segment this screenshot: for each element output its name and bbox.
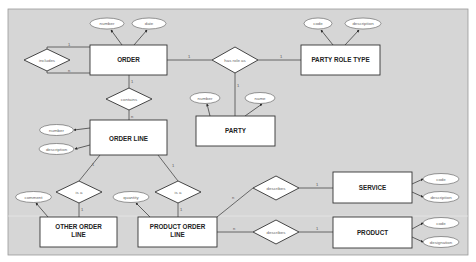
attribute-product-order-line-quantity[interactable]: quantity [113, 192, 149, 203]
relationship-label: includes [39, 58, 56, 63]
cardinality: n [232, 195, 234, 200]
entity-label-line2: LINE [71, 231, 85, 238]
entity-party[interactable]: PARTY [196, 116, 275, 146]
cardinality: n [131, 114, 133, 119]
attribute-party-name[interactable]: name [245, 93, 275, 104]
attribute-order-line-description[interactable]: description [39, 144, 74, 155]
entity-label-line1: OTHER ORDER [55, 223, 102, 230]
entity-label-line1: PRODUCT ORDER [150, 223, 206, 230]
entity-label: ORDER LINE [109, 135, 148, 142]
entity-other-order-line[interactable]: OTHER ORDER LINE [40, 217, 117, 247]
attribute-order-date[interactable]: date [132, 18, 166, 29]
relationship-label: is a [76, 190, 83, 195]
attribute-label: quantity [123, 195, 139, 200]
cardinality: n [68, 68, 70, 73]
attribute-other-order-line-comment[interactable]: comment [16, 192, 52, 203]
entity-service[interactable]: SERVICE [333, 172, 412, 203]
entity-party-role-type[interactable]: PARTY ROLE TYPE [301, 45, 380, 75]
entity-order-line[interactable]: ORDER LINE [90, 120, 167, 155]
attribute-label: description [46, 147, 68, 152]
attribute-label: code [436, 177, 446, 182]
relationship-label: describes [267, 186, 287, 191]
attribute-label: number [198, 96, 213, 101]
relationship-label: contains [121, 97, 138, 102]
attribute-order-line-number[interactable]: number [40, 125, 74, 136]
attribute-product-designation[interactable]: designation [423, 237, 459, 248]
entity-label: SERVICE [359, 184, 387, 191]
entity-product[interactable]: PRODUCT [333, 217, 412, 248]
attribute-service-code[interactable]: code [423, 174, 459, 185]
attribute-prt-description[interactable]: description [345, 18, 381, 29]
attribute-prt-code[interactable]: code [304, 18, 332, 29]
er-diagram: ORDER PARTY ROLE TYPE PARTY ORDER LINE O… [0, 0, 476, 262]
entity-order[interactable]: ORDER [90, 45, 167, 75]
attribute-label: date [145, 21, 154, 26]
relationship-label: is a [175, 190, 182, 195]
attribute-label: comment [24, 195, 43, 200]
attribute-party-number[interactable]: number [190, 93, 220, 104]
cardinality: n [233, 226, 235, 231]
entity-product-order-line[interactable]: PRODUCT ORDER LINE [138, 217, 217, 247]
attribute-order-number[interactable]: number [90, 18, 124, 29]
entity-label: PRODUCT [357, 229, 388, 236]
attribute-label: description [352, 21, 374, 26]
attribute-label: designation [430, 240, 453, 245]
attribute-label: number [49, 128, 64, 133]
attribute-service-description[interactable]: description [423, 192, 459, 203]
entity-label: ORDER [117, 56, 140, 63]
relationship-label: has role as [224, 58, 246, 63]
entity-label: PARTY [225, 127, 247, 134]
relationship-label: describes [267, 230, 287, 235]
entity-label-line2: LINE [170, 231, 184, 238]
attribute-label: name [255, 96, 267, 101]
attribute-label: number [100, 21, 115, 26]
attribute-product-code[interactable]: code [423, 218, 459, 229]
attribute-label: description [430, 195, 452, 200]
entity-label: PARTY ROLE TYPE [311, 56, 369, 63]
attribute-label: code [313, 21, 323, 26]
attribute-label: code [436, 221, 446, 226]
